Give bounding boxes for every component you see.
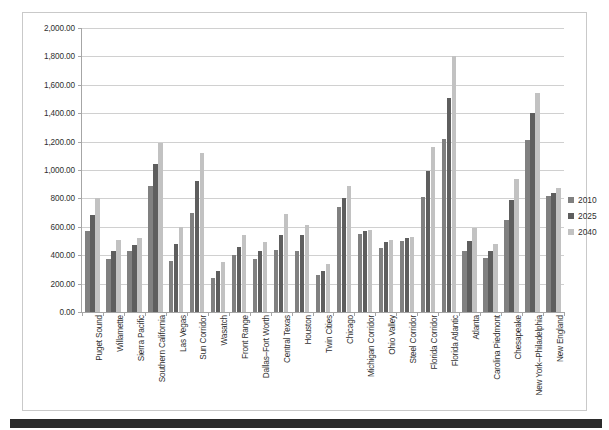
bar-2025[interactable] — [258, 251, 262, 312]
bar-2040[interactable] — [158, 143, 162, 312]
legend-item-2025[interactable]: 2025 — [568, 209, 609, 223]
bar-2025[interactable] — [509, 200, 513, 312]
bar-2040[interactable] — [326, 264, 330, 312]
bar-2040[interactable] — [116, 240, 120, 312]
bar-2040[interactable] — [472, 228, 476, 312]
bar-series-layer — [82, 28, 564, 312]
x-axis-tick-label: Sierra Pacific — [137, 315, 146, 361]
bar-2010[interactable] — [504, 220, 508, 312]
bar-2025[interactable] — [384, 242, 388, 312]
bar-2025[interactable] — [467, 241, 471, 312]
bar-2010[interactable] — [442, 139, 446, 312]
x-axis-tick-label: New England — [556, 315, 565, 362]
bar-2040[interactable] — [137, 238, 141, 312]
bar-2040[interactable] — [284, 214, 288, 312]
bar-2025[interactable] — [426, 171, 430, 312]
bar-2025[interactable] — [237, 247, 241, 312]
bar-2010[interactable] — [525, 140, 529, 312]
bar-2010[interactable] — [295, 251, 299, 312]
bar-2040[interactable] — [493, 244, 497, 312]
bar-2040[interactable] — [347, 186, 351, 312]
bar-group — [166, 28, 187, 312]
bar-2010[interactable] — [232, 255, 236, 312]
bar-group — [459, 28, 480, 312]
bar-group — [187, 28, 208, 312]
bar-2010[interactable] — [316, 275, 320, 312]
x-axis-tick-label: Carolina Piedmont — [493, 315, 502, 380]
bar-2025[interactable] — [132, 245, 136, 312]
bar-2040[interactable] — [263, 242, 267, 312]
bar-group — [417, 28, 438, 312]
bar-2025[interactable] — [447, 98, 451, 312]
bar-2040[interactable] — [242, 235, 246, 312]
x-axis-tick-label: Sun Corridor — [199, 315, 208, 360]
bar-2025[interactable] — [300, 235, 304, 312]
bar-2025[interactable] — [195, 181, 199, 312]
bar-2025[interactable] — [405, 238, 409, 312]
legend-item-2040[interactable]: 2040 — [568, 225, 609, 239]
legend-item-2010[interactable]: 2010 — [568, 193, 609, 207]
legend-label: 2010 — [578, 195, 597, 205]
bar-2025[interactable] — [551, 193, 555, 312]
y-axis-tick-label: 0.00 — [59, 308, 75, 317]
bar-2040[interactable] — [389, 240, 393, 312]
bar-2010[interactable] — [106, 259, 110, 312]
bar-2025[interactable] — [321, 271, 325, 312]
x-axis-tick-label: Wasatch — [220, 315, 229, 346]
bar-2010[interactable] — [148, 186, 152, 312]
bar-2010[interactable] — [379, 248, 383, 312]
bar-2040[interactable] — [410, 237, 414, 312]
bar-2040[interactable] — [556, 188, 560, 312]
bar-2010[interactable] — [190, 213, 194, 312]
bar-2010[interactable] — [358, 234, 362, 312]
bar-2010[interactable] — [337, 207, 341, 312]
x-axis-tick-label: Ohio Valley — [388, 315, 397, 355]
x-axis-tick-label: Las Vegas — [179, 315, 188, 352]
bar-2040[interactable] — [221, 262, 225, 312]
bar-2025[interactable] — [363, 231, 367, 312]
bar-group — [250, 28, 271, 312]
bar-2010[interactable] — [483, 258, 487, 312]
y-axis-tick-label: 800.00 — [51, 194, 75, 203]
bar-2025[interactable] — [153, 164, 157, 312]
x-axis-tick-label: Southern California — [158, 315, 167, 382]
chart-plot-wrapper: 0.00200.00400.00600.00800.001,000.001,20… — [23, 13, 586, 410]
y-axis-tick-label: 1,000.00 — [44, 166, 75, 175]
bar-2025[interactable] — [279, 235, 283, 312]
bar-2025[interactable] — [342, 198, 346, 312]
bar-2025[interactable] — [530, 113, 534, 312]
legend-swatch-icon — [568, 213, 574, 219]
chart-frame: 0.00200.00400.00600.00800.001,000.001,20… — [22, 12, 587, 411]
bar-2040[interactable] — [305, 225, 309, 312]
bar-2040[interactable] — [368, 230, 372, 312]
bar-2010[interactable] — [274, 250, 278, 312]
bar-2040[interactable] — [200, 153, 204, 312]
bar-2010[interactable] — [127, 251, 131, 312]
bar-2010[interactable] — [462, 251, 466, 312]
bar-2040[interactable] — [535, 93, 539, 312]
x-axis-tick-label: Chicago — [346, 315, 355, 344]
bar-2040[interactable] — [95, 198, 99, 312]
bar-2010[interactable] — [211, 278, 215, 312]
y-axis-tick-mark — [78, 28, 82, 29]
bar-2010[interactable] — [85, 231, 89, 312]
y-axis-tick-label: 2,000.00 — [44, 24, 75, 33]
bar-group — [333, 28, 354, 312]
bar-group — [229, 28, 250, 312]
bar-2040[interactable] — [179, 227, 183, 312]
bar-2010[interactable] — [253, 259, 257, 312]
bar-2025[interactable] — [174, 244, 178, 312]
bar-2040[interactable] — [514, 179, 518, 312]
bar-2010[interactable] — [546, 196, 550, 312]
bar-group — [82, 28, 103, 312]
bar-2025[interactable] — [90, 215, 94, 312]
bar-2025[interactable] — [488, 251, 492, 312]
legend-label: 2040 — [578, 227, 597, 237]
bar-2025[interactable] — [111, 251, 115, 312]
bar-2025[interactable] — [216, 271, 220, 312]
bar-2010[interactable] — [169, 261, 173, 312]
bar-2040[interactable] — [452, 56, 456, 312]
bar-2010[interactable] — [421, 197, 425, 312]
bar-2010[interactable] — [400, 241, 404, 312]
bar-2040[interactable] — [431, 147, 435, 312]
